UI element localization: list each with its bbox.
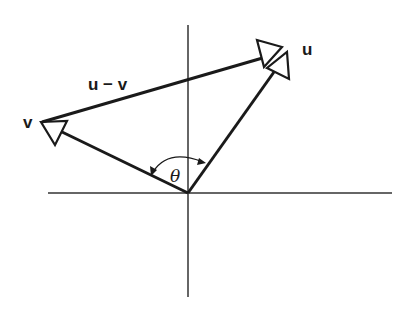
theta-arrow-right-icon (197, 158, 206, 165)
vector-u-minus-v-line (42, 57, 266, 122)
label-u-minus-v: u − v (88, 75, 128, 94)
label-theta: θ (170, 166, 180, 186)
vector-u-line (188, 72, 274, 193)
vector-v-line (60, 131, 188, 193)
label-v: v (23, 113, 33, 132)
vector-diagram: u v u − v θ (0, 0, 415, 312)
diagram-svg: u v u − v θ (0, 0, 415, 312)
label-u: u (302, 40, 312, 59)
